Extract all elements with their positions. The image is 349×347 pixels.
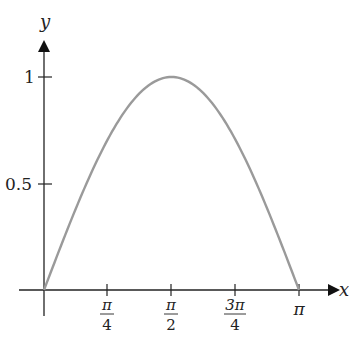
svg-text:4: 4 [230, 316, 240, 334]
y-tick-label-1: 1 [24, 67, 35, 87]
svg-text:3π: 3π [225, 296, 246, 314]
y-tick-label-0.5: 0.5 [5, 174, 32, 194]
x-tick-label-3pi-4: 3π 4 [224, 296, 246, 334]
x-tick-label-pi-2: π 2 [164, 296, 178, 334]
svg-text:4: 4 [102, 316, 112, 334]
x-tick-label-pi: π [292, 299, 305, 319]
sine-curve [44, 77, 299, 290]
x-tick-label-pi-4: π 4 [100, 296, 114, 334]
y-axis-arrow-icon [38, 40, 50, 52]
svg-text:2: 2 [166, 316, 176, 334]
chart: y x 1 0.5 π 4 π 2 3π 4 π [0, 0, 349, 347]
x-axis-label: x [339, 279, 349, 300]
svg-text:π: π [101, 296, 113, 314]
svg-text:π: π [165, 296, 177, 314]
y-axis-label: y [39, 11, 51, 32]
